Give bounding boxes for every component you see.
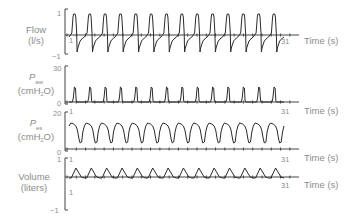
flow-ytick-bottom: −1 xyxy=(52,52,61,61)
flow-ylabel-unit: (l/s) xyxy=(16,36,56,47)
pes-unit-b: O) xyxy=(44,131,55,142)
paw-unit-b: O) xyxy=(44,85,55,96)
flow-ylabel: Flow (l/s) xyxy=(16,25,56,47)
paw-trace xyxy=(69,87,284,102)
pes-ylabel: Pes (cmH2O) xyxy=(14,118,58,143)
volume-ytick-bottom: −1 xyxy=(50,206,59,215)
pes-xtick-end: 31 xyxy=(281,155,289,164)
pes-unit-a: (cmH xyxy=(18,131,41,142)
volume-time-label: Time (s) xyxy=(304,180,338,191)
paw-time-label: Time (s) xyxy=(304,106,338,117)
paw-ytick-bottom: 0 xyxy=(57,99,61,108)
volume-xtick-end: 31 xyxy=(281,181,289,190)
flow-ytick-top: 1 xyxy=(57,9,61,18)
pes-time-label: Time (s) xyxy=(304,153,338,164)
volume-ylabel: Volume (liters) xyxy=(10,172,58,194)
volume-xtick-start: 1 xyxy=(69,188,73,197)
paw-xtick-end: 31 xyxy=(281,107,289,116)
pes-trace xyxy=(69,123,284,143)
flow-xtick-end: 31 xyxy=(281,37,289,46)
flow-xtick-start: 1 xyxy=(69,36,73,45)
volume-xtick-start-top: 1 xyxy=(69,155,73,164)
paw-ytick-top: 30 xyxy=(53,64,61,73)
paw-unit-a: (cmH xyxy=(18,85,41,96)
volume-ytick-top: 1 xyxy=(57,155,61,164)
pes-ytick-top: 20 xyxy=(53,109,61,118)
flow-trace xyxy=(69,14,284,52)
volume-ylabel-unit: (liters) xyxy=(10,183,58,194)
paw-ylabel: Paw (cmH2O) xyxy=(14,72,58,97)
flow-time-label: Time (s) xyxy=(304,36,338,47)
axes xyxy=(65,9,299,210)
pes-xtick-start-top: 1 xyxy=(69,107,73,116)
traces xyxy=(69,14,284,178)
